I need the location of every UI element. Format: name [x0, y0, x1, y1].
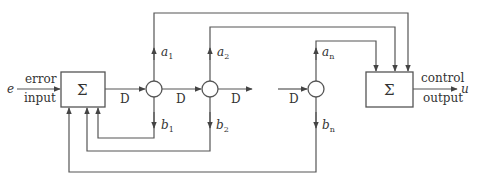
a2-label: a2 [217, 45, 229, 61]
delay-label-1: D [120, 92, 130, 106]
output-summer: Σ [366, 72, 413, 107]
bn-label: bn [322, 118, 335, 134]
a1-path [154, 13, 408, 81]
a1-label: a1 [161, 45, 173, 61]
input-symbol: e [7, 82, 14, 96]
output-label-top: control [421, 71, 464, 85]
node-1-circle [146, 81, 162, 97]
input-label-bottom: input [24, 91, 56, 105]
input-summer: Σ [61, 72, 105, 107]
delay-label-n: D [289, 92, 299, 106]
control-output: control output u [413, 71, 469, 105]
input-label-top: error [25, 72, 57, 86]
b1-label: b1 [161, 118, 174, 134]
sigma-symbol: Σ [77, 81, 88, 99]
node-n-circle [308, 81, 324, 97]
block-diagram: e error input Σ D D D D a1 a2 an b1 b2 b… [0, 0, 477, 185]
output-label-bottom: output [423, 91, 463, 105]
b2-label: b2 [216, 118, 229, 134]
delay-label-3: D [231, 92, 241, 106]
an-label: an [322, 45, 334, 61]
bn-path [69, 97, 316, 172]
output-symbol: u [461, 82, 469, 96]
error-input: e error input [7, 72, 60, 105]
sigma-symbol: Σ [384, 81, 395, 99]
delay-label-2: D [176, 92, 186, 106]
node-2-circle [202, 81, 218, 97]
